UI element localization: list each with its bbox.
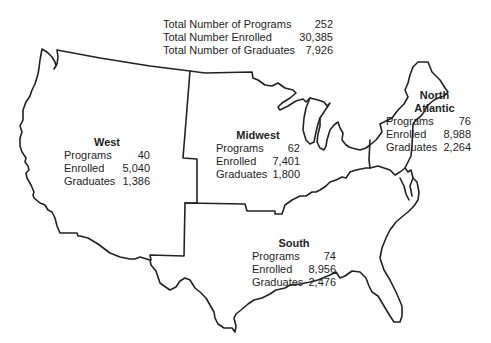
row-value: 8,956 xyxy=(308,263,336,276)
row-label: Programs xyxy=(216,142,264,155)
na-south-border xyxy=(370,166,405,175)
row-value: 8,988 xyxy=(443,128,471,141)
row-label: Enrolled xyxy=(216,155,256,168)
totals-row-programs: Total Number of Programs 252 xyxy=(163,18,333,31)
region-row-enrolled: Enrolled 8,988 xyxy=(386,128,471,141)
region-north-atlantic: North Atlantic Programs 76 Enrolled 8,98… xyxy=(386,89,471,154)
totals-row-graduates: Total Number of Graduates 7,926 xyxy=(163,44,333,57)
row-label: Enrolled xyxy=(252,263,292,276)
row-label: Graduates xyxy=(216,168,267,181)
totals-value: 30,385 xyxy=(299,31,333,44)
national-totals: Total Number of Programs 252 Total Numbe… xyxy=(163,18,333,57)
row-label: Graduates xyxy=(252,276,303,289)
totals-label: Total Number Enrolled xyxy=(163,31,272,44)
row-label: Graduates xyxy=(64,175,115,188)
totals-value: 7,926 xyxy=(305,44,333,57)
region-title-line1: North xyxy=(398,89,471,102)
row-label: Programs xyxy=(386,115,434,128)
row-value: 74 xyxy=(324,250,336,263)
region-row-programs: Programs 40 xyxy=(64,149,150,162)
row-value: 1,800 xyxy=(272,168,300,181)
region-row-graduates: Graduates 1,386 xyxy=(64,175,150,188)
region-midwest: Midwest Programs 62 Enrolled 7,401 Gradu… xyxy=(216,129,300,181)
row-value: 1,386 xyxy=(122,175,150,188)
row-value: 5,040 xyxy=(122,162,150,175)
row-value: 2,264 xyxy=(443,141,471,154)
totals-value: 252 xyxy=(315,18,333,31)
row-value: 40 xyxy=(138,149,150,162)
chesapeake-detail xyxy=(400,178,413,200)
totals-label: Total Number of Graduates xyxy=(163,44,295,57)
row-value: 7,401 xyxy=(272,155,300,168)
us-outline xyxy=(20,49,448,332)
region-row-graduates: Graduates 1,800 xyxy=(216,168,300,181)
region-row-graduates: Graduates 2,476 xyxy=(252,276,336,289)
row-label: Programs xyxy=(252,250,300,263)
region-row-enrolled: Enrolled 7,401 xyxy=(216,155,300,168)
midwest-na-border xyxy=(369,140,370,168)
region-row-enrolled: Enrolled 5,040 xyxy=(64,162,150,175)
region-title-line2: Atlantic xyxy=(398,102,471,115)
west-midwest-border xyxy=(183,71,197,203)
west-south-border xyxy=(150,203,197,260)
row-value: 76 xyxy=(459,115,471,128)
row-value: 62 xyxy=(288,142,300,155)
row-label: Programs xyxy=(64,149,112,162)
region-row-programs: Programs 74 xyxy=(252,250,336,263)
row-label: Graduates xyxy=(386,141,437,154)
region-south: South Programs 74 Enrolled 8,956 Graduat… xyxy=(252,237,336,289)
row-label: Enrolled xyxy=(64,162,104,175)
region-row-programs: Programs 62 xyxy=(216,142,300,155)
region-title: Midwest xyxy=(216,129,300,142)
row-value: 2,476 xyxy=(308,276,336,289)
region-row-programs: Programs 76 xyxy=(386,115,471,128)
region-row-enrolled: Enrolled 8,956 xyxy=(252,263,336,276)
totals-label: Total Number of Programs xyxy=(163,18,291,31)
row-label: Enrolled xyxy=(386,128,426,141)
region-title: South xyxy=(252,237,336,250)
region-west: West Programs 40 Enrolled 5,040 Graduate… xyxy=(64,136,150,188)
totals-row-enrolled: Total Number Enrolled 30,385 xyxy=(163,31,333,44)
region-row-graduates: Graduates 2,264 xyxy=(386,141,471,154)
region-title: West xyxy=(64,136,150,149)
